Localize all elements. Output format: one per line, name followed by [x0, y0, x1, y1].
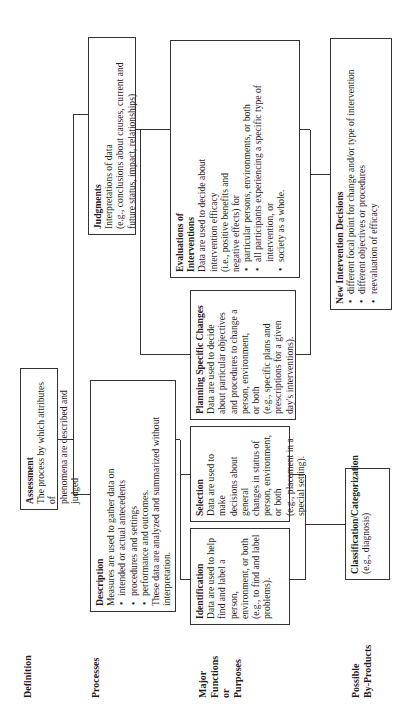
box-line: changes in status of — [250, 432, 261, 516]
connector — [310, 174, 330, 175]
box-line: Data are used to decide — [205, 296, 216, 414]
connector — [180, 579, 190, 580]
box-line: or both — [272, 432, 283, 516]
box-line: person, environment, — [239, 296, 250, 414]
bullet-item: society as a whole. — [275, 46, 286, 262]
box-line: and procedures to change a — [228, 296, 239, 414]
connector — [300, 129, 310, 130]
description-box: Description Measures are used to gather … — [90, 380, 176, 612]
box-line: (e.g., diagnosis) — [360, 474, 371, 574]
connector — [73, 114, 88, 115]
box-title: Judgments — [92, 43, 103, 229]
evaluations-bullets: particular persons, environments, or bot… — [241, 46, 286, 272]
box-line: Interpretations of data — [103, 43, 114, 229]
row-label-processes: Processes — [90, 658, 102, 698]
planning-box: Planning Specific Changes Data are used … — [190, 290, 296, 420]
row-label-line: Major — [197, 656, 209, 698]
box-line: The process by which attributes of — [35, 374, 57, 504]
new-intervention-bullets: different focal point for change and/or … — [345, 44, 379, 304]
box-line: person, environment, — [261, 432, 272, 516]
box-title: Identification — [194, 534, 205, 619]
bullet-item: all participants experiencing a specific… — [252, 46, 274, 262]
box-line: negative effects) for — [230, 46, 241, 272]
box-line: Measures are used to gather data on — [105, 386, 116, 606]
box-title: Classification/Categorization — [349, 474, 360, 574]
box-line: (i.e., positive benefits and — [219, 46, 230, 272]
description-bullets: intended or actual antecedents procedure… — [116, 386, 150, 606]
bullet-item: intended or actual antecedents — [116, 386, 127, 596]
connector — [305, 524, 345, 525]
box-line: problems). — [261, 534, 272, 619]
classification-box: Classification/Categorization (e.g., dia… — [345, 468, 390, 580]
row-label-line: Functions — [209, 656, 221, 698]
connector — [140, 354, 190, 355]
row-label-line: Purposes — [232, 656, 244, 698]
row-label-text: Processes — [90, 658, 101, 698]
bullet-item: particular persons, environments, or bot… — [241, 46, 252, 262]
row-label-functions: Major Functions or Purposes — [197, 656, 243, 698]
connector — [180, 440, 181, 580]
box-line: (e.g., specific plans and — [261, 296, 272, 414]
row-label-definition: Definition — [22, 655, 34, 698]
box-title: Description — [94, 386, 105, 606]
connector — [290, 474, 305, 475]
box-title: New Intervention Decisions — [334, 44, 345, 304]
bullet-item: reevaluation of efficacy — [368, 44, 379, 294]
connector — [180, 474, 190, 475]
connector — [73, 494, 90, 495]
judgments-box: Judgments Interpretations of data (e.g.,… — [88, 37, 136, 235]
connector — [290, 579, 305, 580]
connector — [140, 129, 170, 130]
row-label-line: By-Products — [362, 645, 374, 698]
box-line: environment, or both — [239, 534, 250, 619]
box-line: Data are used to decide about — [196, 46, 207, 272]
connector — [305, 475, 306, 580]
box-title: Planning Specific Changes — [194, 296, 205, 414]
box-title: Assessment — [24, 374, 35, 504]
box-line: (e.g., to find and label — [250, 534, 261, 619]
box-line: future status, impact, relationships) — [126, 43, 137, 229]
identification-box: Identification Data are used to help fin… — [190, 528, 290, 625]
box-title: Interventions — [185, 46, 196, 272]
row-label-line: Possible — [350, 645, 362, 698]
bullet-item: procedures and settings — [128, 386, 139, 596]
connector — [140, 130, 141, 355]
box-line: These data are analyzed and summarized w… — [150, 386, 172, 606]
bullet-item: different objectives or procedures — [356, 44, 367, 294]
box-line: decisions about general — [228, 432, 250, 516]
box-line: (e.g., conclusions about causes, current… — [114, 43, 125, 229]
box-title: Evaluations of — [174, 46, 185, 272]
row-label-byproducts: Possible By-Products — [350, 645, 373, 698]
box-line: Data are used to make — [205, 432, 227, 516]
row-label-line: or — [220, 656, 232, 698]
box-line: intervention efficacy — [208, 46, 219, 272]
connector — [58, 439, 73, 440]
new-intervention-box: New Intervention Decisions different foc… — [330, 38, 392, 310]
bullet-item: performance and outcomes. — [139, 386, 150, 596]
box-line: day's interventions). — [284, 296, 295, 414]
box-line: or both — [250, 296, 261, 414]
selection-box: Selection Data are used to make decision… — [190, 426, 290, 522]
assessment-box: Assessment The process by which attribut… — [20, 368, 58, 510]
box-title: Selection — [194, 432, 205, 516]
row-label-text: Definition — [22, 655, 33, 698]
evaluations-box: Evaluations of Interventions Data are us… — [170, 40, 300, 278]
box-line: Data are used to help — [205, 534, 216, 619]
connector — [296, 354, 310, 355]
bullet-item: different focal point for change and/or … — [345, 44, 356, 294]
connector — [73, 115, 74, 495]
assessment-diagram: Definition Processes Major Functions or … — [0, 0, 413, 720]
connector — [310, 130, 311, 355]
box-line: find and label a person, — [216, 534, 238, 619]
box-line: prescriptions for a given — [272, 296, 283, 414]
box-line: about particular objectives — [216, 296, 227, 414]
